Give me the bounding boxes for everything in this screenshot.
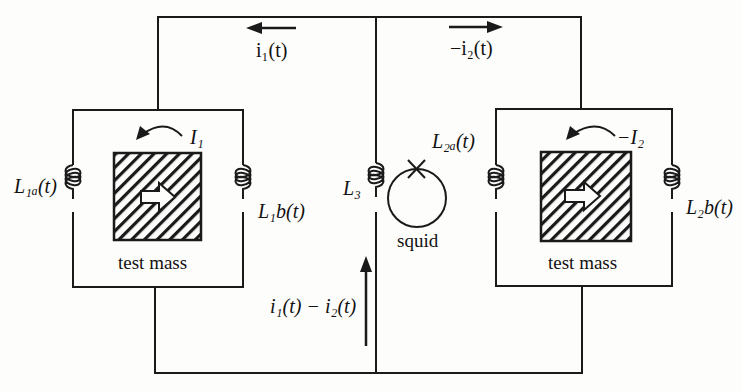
label-i1-minus-i2: i₁(t) − i₂(t) <box>270 296 356 316</box>
coil-L2b <box>665 165 680 199</box>
label-squid: squid <box>397 230 438 252</box>
label-minus-i2: −i₂(t) <box>450 38 493 58</box>
label-L1a: L₁ₐ(t) <box>14 176 57 196</box>
coil-L3 <box>369 163 384 197</box>
label-test-mass-left: test mass <box>118 252 187 274</box>
label-L1b: L₁b(t) <box>258 201 305 221</box>
circuit-diagram <box>0 0 742 392</box>
coil-L1b <box>236 165 251 199</box>
label-L3: L₃ <box>343 178 361 198</box>
label-L2b: L₂b(t) <box>686 197 733 217</box>
coil-L2a <box>489 165 504 199</box>
coil-L1a <box>66 165 81 199</box>
top-wire <box>158 17 581 110</box>
label-I1: I₁ <box>190 127 204 147</box>
label-minus-I2: −I₂ <box>617 127 644 147</box>
label-i1: i₁(t) <box>256 40 287 60</box>
bottom-wire <box>155 286 582 373</box>
squid-loop <box>388 169 446 227</box>
label-L2a: L₂ₐ(t) <box>432 131 475 151</box>
label-test-mass-right: test mass <box>548 252 617 274</box>
